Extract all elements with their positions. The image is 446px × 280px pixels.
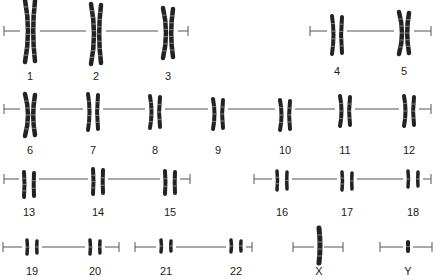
chromosome-label-y: Y — [404, 266, 411, 277]
chromosome-label-21: 21 — [160, 266, 172, 277]
chromosome-3 — [162, 8, 174, 58]
chromosome-21 — [160, 240, 173, 252]
karyotype-row — [310, 12, 431, 54]
chromosome-label-12: 12 — [403, 145, 415, 156]
karyotype-row — [4, 169, 190, 197]
chromosome-2 — [90, 4, 103, 64]
chromosome-18 — [407, 171, 420, 187]
chromosome-label-9: 9 — [215, 145, 221, 156]
chromosome-label-16: 16 — [276, 207, 288, 218]
chromosome-7 — [87, 94, 99, 130]
chromosome-label-17: 17 — [341, 207, 353, 218]
chromosome-1 — [24, 0, 37, 62]
chromosome-label-6: 6 — [27, 145, 33, 156]
chromosome-22 — [230, 240, 243, 252]
chromosome-20 — [89, 240, 102, 254]
chromosome-label-5: 5 — [401, 66, 407, 77]
chromosome-14 — [91, 169, 104, 194]
karyotype-row — [4, 0, 188, 64]
chromosome-label-14: 14 — [92, 207, 104, 218]
chromosome-11 — [339, 96, 351, 126]
chromosome-16 — [276, 171, 289, 190]
chromosome-label-11: 11 — [339, 145, 350, 156]
chromosome-8 — [149, 96, 161, 128]
chromosome-label-2: 2 — [93, 71, 99, 82]
chromosome-label-7: 7 — [90, 145, 96, 156]
chromosome-label-4: 4 — [334, 66, 340, 77]
chromosome-19 — [26, 240, 39, 254]
chromosome-5 — [398, 12, 410, 54]
chromosome-12 — [403, 96, 415, 126]
chromosome-17 — [341, 172, 354, 190]
chromosome-15 — [163, 171, 176, 194]
chromosome-label-8: 8 — [152, 145, 158, 156]
karyotype-row — [254, 171, 431, 190]
chromosome-label-20: 20 — [89, 266, 101, 277]
karyotype-row — [3, 240, 119, 254]
chromosome-label-x: X — [315, 266, 322, 277]
karyotype-row — [380, 242, 432, 252]
chromosome-label-15: 15 — [164, 207, 176, 218]
chromosome-9 — [212, 99, 224, 129]
karyotype-row — [4, 94, 431, 136]
karyotype-row — [135, 240, 252, 252]
chromosome-y — [406, 242, 410, 251]
chromosome-label-3: 3 — [165, 71, 171, 82]
chromosome-x — [317, 228, 322, 263]
chromosome-label-22: 22 — [230, 266, 242, 277]
karyotype-row — [293, 228, 343, 263]
chromosome-13 — [22, 172, 35, 197]
chromosome-label-19: 19 — [26, 266, 38, 277]
chromosome-label-13: 13 — [23, 207, 35, 218]
chromosome-label-18: 18 — [407, 207, 419, 218]
chromosome-label-10: 10 — [279, 145, 291, 156]
chromosome-label-1: 1 — [27, 71, 33, 82]
karyotype-figure: 12345678910111213141516171819202122XY — [0, 0, 446, 280]
chromosome-4 — [331, 16, 343, 54]
chromosome-6 — [24, 94, 36, 136]
chromosome-10 — [279, 100, 291, 130]
karyotype-diagram — [0, 0, 446, 280]
